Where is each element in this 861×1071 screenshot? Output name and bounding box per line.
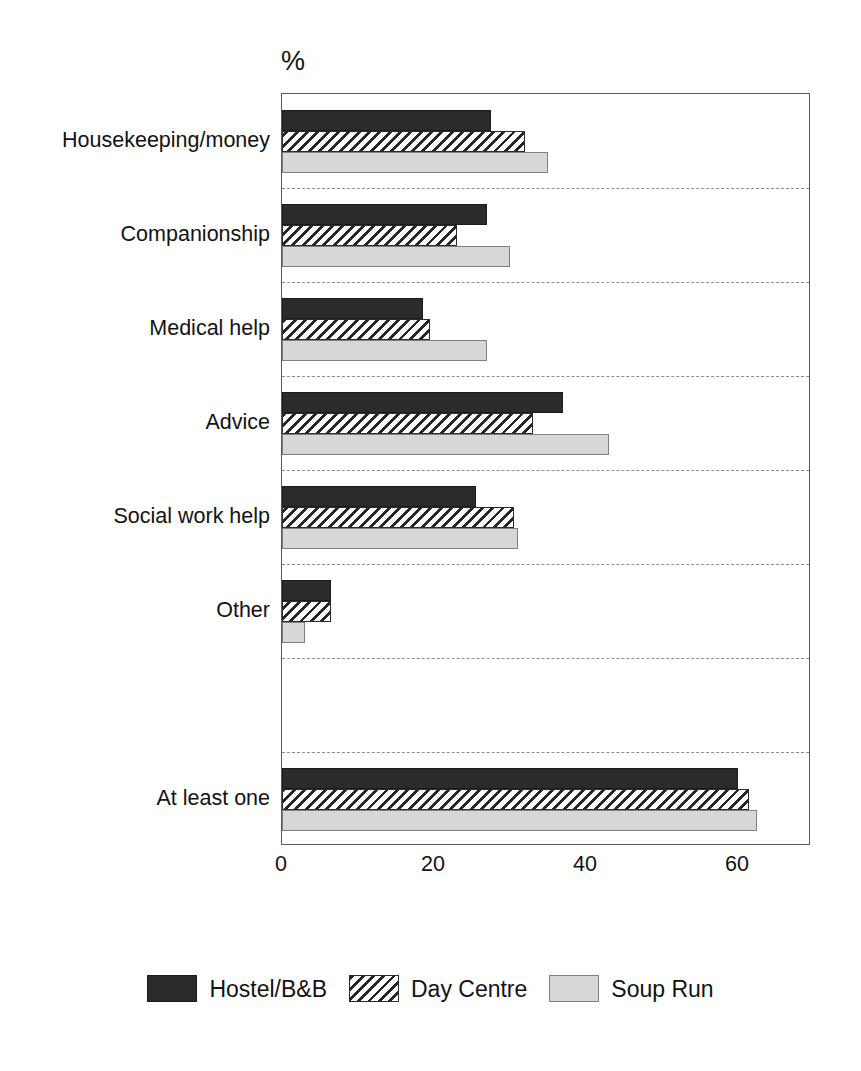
- category-label: Social work help: [0, 504, 270, 528]
- legend-item[interactable]: Soup Run: [549, 975, 713, 1002]
- category-label: Medical help: [0, 316, 270, 340]
- legend: Hostel/B&BDay CentreSoup Run: [0, 975, 861, 1002]
- bar-chart: % Housekeeping/moneyCompanionshipMedical…: [0, 0, 861, 1071]
- bar: [282, 225, 457, 246]
- bar: [282, 152, 548, 173]
- bar: [282, 246, 510, 267]
- plot-area: [281, 93, 810, 845]
- bar: [282, 580, 331, 601]
- bar: [282, 392, 563, 413]
- bar: [282, 434, 609, 455]
- category-label: Housekeeping/money: [0, 128, 270, 152]
- gridline: [282, 282, 809, 283]
- gridline: [282, 376, 809, 377]
- bar: [282, 601, 331, 622]
- legend-item[interactable]: Day Centre: [349, 975, 527, 1002]
- gridline: [282, 470, 809, 471]
- x-tick-label: 0: [275, 852, 287, 877]
- bar: [282, 622, 305, 643]
- bar: [282, 810, 757, 831]
- bar: [282, 298, 423, 319]
- category-label: Companionship: [0, 222, 270, 246]
- bar: [282, 528, 518, 549]
- legend-label: Day Centre: [411, 976, 527, 1002]
- gridline: [282, 658, 809, 659]
- legend-label: Hostel/B&B: [209, 976, 327, 1002]
- legend-item[interactable]: Hostel/B&B: [147, 975, 327, 1002]
- gridline: [282, 188, 809, 189]
- x-tick-label: 20: [421, 852, 445, 877]
- bar: [282, 110, 491, 131]
- bar: [282, 507, 514, 528]
- bar: [282, 131, 525, 152]
- plot-inner: [282, 94, 809, 844]
- bar: [282, 486, 476, 507]
- bar: [282, 319, 430, 340]
- bar: [282, 789, 749, 810]
- bar: [282, 768, 738, 789]
- bar: [282, 340, 487, 361]
- legend-label: Soup Run: [611, 976, 713, 1002]
- legend-swatch-icon: [147, 975, 197, 1002]
- bar: [282, 204, 487, 225]
- legend-swatch-icon: [349, 975, 399, 1002]
- legend-swatch-icon: [549, 975, 599, 1002]
- category-label: Advice: [0, 410, 270, 434]
- x-tick-label: 40: [573, 852, 597, 877]
- gridline: [282, 752, 809, 753]
- unit-label: %: [281, 46, 305, 76]
- bar: [282, 413, 533, 434]
- category-label: Other: [0, 598, 270, 622]
- gridline: [282, 564, 809, 565]
- x-tick-label: 60: [725, 852, 749, 877]
- category-label: At least one: [0, 786, 270, 810]
